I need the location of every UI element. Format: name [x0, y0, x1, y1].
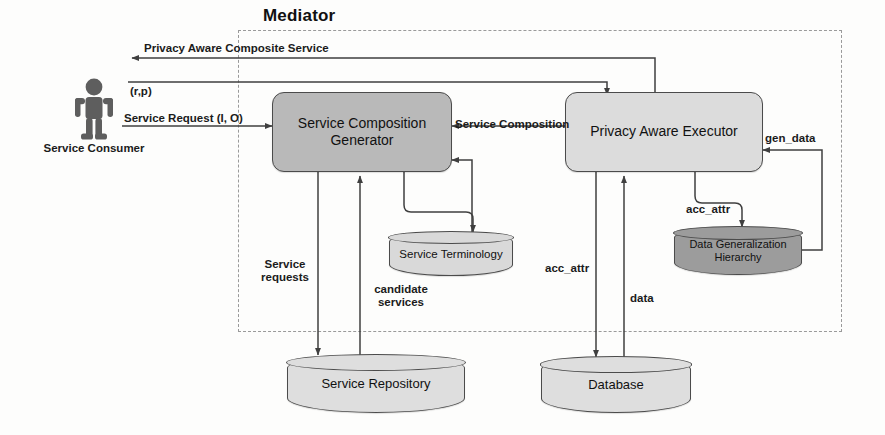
- service-composition-generator-node[interactable]: Service Composition Generator: [272, 92, 452, 172]
- person-icon: [72, 78, 116, 140]
- data-generalization-hierarchy-label: Data Generalization Hierarchy: [675, 238, 801, 265]
- database-node[interactable]: Database: [541, 357, 691, 413]
- label-service-composition: Service Composition: [455, 118, 569, 131]
- wire-privacy-aware-composite-service: [132, 58, 655, 95]
- label-data: data: [630, 292, 654, 305]
- label-service-request: Service Request (I, O): [124, 112, 243, 125]
- cylinder-cap: [388, 231, 513, 244]
- service-repository-node[interactable]: Service Repository: [287, 355, 465, 413]
- cylinder-cap: [286, 354, 465, 371]
- service-terminology-node[interactable]: Service Terminology: [389, 232, 513, 276]
- label-candidate-services: candidate services: [365, 283, 437, 309]
- diagram-canvas: Mediator: [0, 0, 885, 435]
- label-gen-data: gen_data: [765, 132, 816, 145]
- cylinder-cap: [540, 356, 691, 372]
- data-generalization-hierarchy-node[interactable]: Data Generalization Hierarchy: [674, 227, 802, 275]
- service-composition-generator-label: Service Composition Generator: [273, 115, 451, 149]
- label-acc-attr-database: acc_attr: [545, 262, 589, 275]
- privacy-aware-executor-node[interactable]: Privacy Aware Executor: [565, 92, 763, 172]
- label-service-requests: Service requests: [252, 258, 318, 284]
- wire-acc-attr-dgh: [695, 172, 742, 227]
- label-r-p: (r,p): [130, 85, 152, 98]
- label-privacy-aware-composite-service: Privacy Aware Composite Service: [144, 42, 329, 55]
- privacy-aware-executor-label: Privacy Aware Executor: [590, 123, 738, 140]
- service-repository-label: Service Repository: [315, 376, 436, 392]
- label-acc-attr-dgh: acc_attr: [686, 203, 730, 216]
- database-label: Database: [582, 377, 650, 393]
- service-consumer-label: Service Consumer: [28, 142, 160, 155]
- wire-generator-to-terminology: [404, 172, 473, 232]
- service-terminology-label: Service Terminology: [393, 247, 508, 261]
